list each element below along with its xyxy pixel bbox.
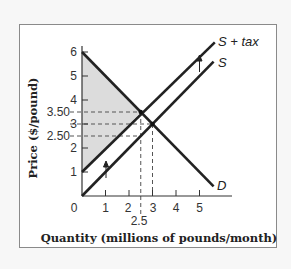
- x-axis-title: Quantity (millions of pounds/month): [41, 231, 278, 245]
- x-tick-2.5: 2.5: [131, 214, 148, 228]
- x-tick-5: 5: [196, 201, 203, 215]
- x-tick-0: 0: [71, 201, 78, 215]
- y-tick-3: 3: [70, 117, 77, 131]
- y-tick-4: 4: [70, 93, 77, 107]
- x-tick-4: 4: [173, 201, 180, 215]
- x-tick-1: 1: [102, 201, 109, 215]
- y-axis-title: Price ($/pound): [26, 78, 40, 179]
- supply-plus-tax-label: S + tax: [218, 34, 259, 49]
- supply-label: S: [218, 55, 227, 70]
- equilibrium-with-tax-point: [139, 110, 143, 114]
- y-tick-2: 2: [70, 141, 77, 155]
- y-tick-6: 6: [70, 45, 77, 59]
- y-tick-5: 5: [70, 69, 77, 83]
- x-tick-labels: 0 1 2 3 4 5 2.5: [71, 201, 204, 228]
- y-tick-2.50: 2.50: [47, 129, 71, 143]
- y-tick-1: 1: [70, 165, 77, 179]
- x-ticks: [106, 190, 200, 196]
- shaded-surplus-region: [82, 52, 141, 172]
- supply-demand-tax-chart: 1 2 2.50 3 3.50 4 5 6 0 1 2 3 4 5 2.5 S …: [0, 0, 291, 269]
- y-tick-3.50: 3.50: [47, 105, 71, 119]
- x-tick-3: 3: [150, 201, 157, 215]
- demand-label: D: [217, 178, 226, 193]
- equilibrium-without-tax-point: [150, 122, 154, 126]
- x-tick-2: 2: [125, 201, 132, 215]
